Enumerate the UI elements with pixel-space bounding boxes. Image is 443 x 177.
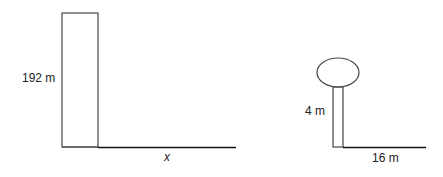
- tree-shadow-label: 16 m: [372, 151, 399, 165]
- building-rect: [62, 13, 98, 147]
- tree-crown: [317, 58, 359, 87]
- building-height-label: 192 m: [22, 71, 55, 85]
- building-shadow-label: x: [164, 150, 170, 164]
- tree-trunk: [333, 87, 343, 147]
- tree-height-label: 4 m: [305, 104, 325, 118]
